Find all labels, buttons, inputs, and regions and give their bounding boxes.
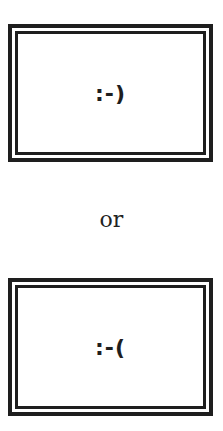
sad-emoticon-frame: :-(: [8, 278, 213, 416]
sad-emoticon: :-(: [95, 335, 126, 360]
sad-emoticon-inner-frame: :-(: [15, 285, 206, 409]
happy-emoticon-frame: :-): [8, 24, 213, 162]
happy-emoticon: :-): [95, 81, 126, 106]
happy-emoticon-inner-frame: :-): [15, 31, 206, 155]
or-separator: or: [0, 207, 223, 232]
